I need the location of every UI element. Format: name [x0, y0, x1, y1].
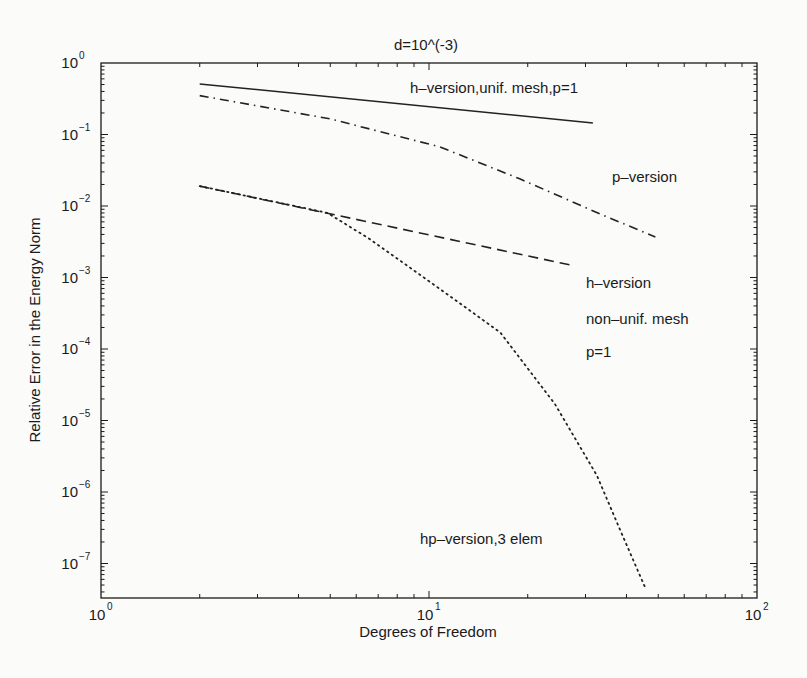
chart-title: d=10^(-3) — [394, 36, 458, 53]
plot-area: h–version,unif. mesh,p=1p–versionh–versi… — [101, 63, 757, 598]
curve-annotation: h–version — [586, 274, 651, 291]
curve-annotation: p=1 — [586, 343, 611, 360]
y-tick-label: 10 — [61, 126, 78, 143]
series-line-dotted — [200, 186, 646, 589]
x-tick-exponent: 2 — [763, 601, 769, 612]
x-tick-labels: 100101102 — [89, 601, 769, 623]
y-tick-labels: 10010−110−210−310−410−510−610−7 — [61, 50, 91, 572]
y-tick-label: 10 — [61, 412, 78, 429]
y-tick-exponent: −7 — [79, 551, 91, 562]
curve-annotation: hp–version,3 elem — [420, 530, 543, 547]
curve-annotation: non–unif. mesh — [586, 310, 689, 327]
y-tick-exponent: −5 — [79, 408, 91, 419]
y-tick-label: 10 — [61, 197, 78, 214]
y-tick-label: 10 — [61, 269, 78, 286]
curve-annotation: p–version — [612, 168, 677, 185]
data-series — [200, 84, 656, 589]
y-tick-exponent: −1 — [79, 122, 91, 133]
axes-box — [101, 63, 757, 598]
y-axis-label: Relative Error in the Energy Norm — [26, 217, 43, 442]
y-tick-exponent: −4 — [79, 336, 91, 347]
log-log-error-chart: d=10^(-3) h–version,unif. mesh,p=1p–vers… — [0, 0, 807, 678]
y-tick-label: 10 — [61, 54, 78, 71]
x-tick-exponent: 0 — [107, 601, 113, 612]
curve-annotations: h–version,unif. mesh,p=1p–versionh–versi… — [410, 79, 689, 547]
x-tick-label: 10 — [89, 606, 106, 623]
y-tick-exponent: −3 — [79, 265, 91, 276]
series-line-dashdot — [200, 96, 656, 237]
x-tick-label: 10 — [417, 606, 434, 623]
x-axis-label: Degrees of Freedom — [359, 623, 497, 640]
y-tick-exponent: −2 — [79, 193, 91, 204]
y-tick-label: 10 — [61, 483, 78, 500]
x-tick-exponent: 1 — [435, 601, 441, 612]
axis-ticks — [101, 63, 757, 598]
curve-annotation: h–version,unif. mesh,p=1 — [410, 79, 578, 96]
x-tick-label: 10 — [745, 606, 762, 623]
y-tick-label: 10 — [61, 555, 78, 572]
y-tick-exponent: −6 — [79, 479, 91, 490]
y-tick-exponent: 0 — [79, 50, 85, 61]
y-tick-label: 10 — [61, 340, 78, 357]
